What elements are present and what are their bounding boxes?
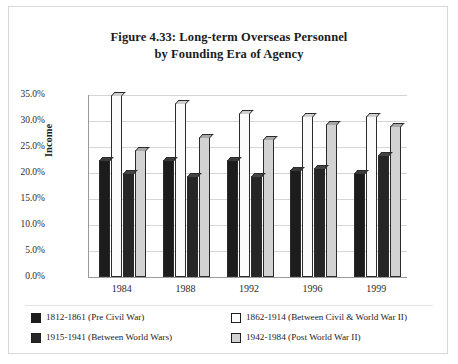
legend-swatch-icon <box>231 333 241 343</box>
plot-area <box>88 95 407 278</box>
bar-top-face <box>175 100 190 104</box>
legend-item-series-2: 1915-1941 (Between World Wars) <box>31 333 231 343</box>
legend-item-series-1: 1862-1914 (Between Civil & World War II) <box>231 313 431 323</box>
bar-group <box>163 95 210 277</box>
y-axis-tick-label: 15.0% <box>0 194 45 204</box>
x-axis-tick-label: 1999 <box>346 283 406 294</box>
legend-swatch-icon <box>231 313 241 323</box>
legend-row: 1915-1941 (Between World Wars) 1942-1984… <box>31 333 431 343</box>
x-axis-tick-label: 1992 <box>219 283 279 294</box>
bar <box>366 116 377 277</box>
legend-label: 1862-1914 (Between Civil & World War II) <box>246 313 407 322</box>
bar <box>111 95 122 277</box>
bar-top-face <box>302 113 317 117</box>
chart-title-line-1: Figure 4.33: Long-term Overseas Personne… <box>111 30 348 44</box>
bar <box>263 139 274 277</box>
x-axis-tick-label: 1996 <box>283 283 343 294</box>
legend-label: 1942-1984 (Post World War II) <box>246 333 361 342</box>
x-axis-tick-label: 1988 <box>155 283 215 294</box>
y-axis-tick-label: 10.0% <box>0 220 45 230</box>
bar <box>239 113 250 277</box>
bar-top-face <box>239 110 254 114</box>
bar-group <box>99 95 146 277</box>
bar-group <box>290 95 337 277</box>
bar-top-face <box>366 113 381 117</box>
chart-title: Figure 4.33: Long-term Overseas Personne… <box>9 29 449 63</box>
legend-label: 1812-1861 (Pre Civil War) <box>46 313 144 322</box>
y-axis-tick-label: 0.0% <box>0 272 45 282</box>
bar <box>378 155 389 277</box>
chart-title-line-2: by Founding Era of Agency <box>9 46 449 63</box>
bar <box>199 137 210 277</box>
legend-row: 1812-1861 (Pre Civil War) 1862-1914 (Bet… <box>31 313 431 323</box>
bar <box>123 173 134 277</box>
legend-swatch-icon <box>31 313 41 323</box>
bar-group <box>227 95 274 277</box>
bar <box>163 160 174 277</box>
legend-label: 1915-1941 (Between World Wars) <box>46 333 172 342</box>
bar <box>390 126 401 277</box>
bar <box>302 116 313 277</box>
bar <box>314 168 325 277</box>
bar <box>135 150 146 277</box>
x-axis-tick-label: 1984 <box>92 283 152 294</box>
bar <box>290 170 301 277</box>
bar-group <box>354 95 401 277</box>
bar <box>354 173 365 277</box>
legend-divider <box>25 305 433 306</box>
y-axis-tick-label: 35.0% <box>0 90 45 100</box>
bar <box>175 103 186 277</box>
bar <box>187 176 198 277</box>
legend-item-series-3: 1942-1984 (Post World War II) <box>231 333 431 343</box>
bar <box>251 176 262 277</box>
chart-legend: 1812-1861 (Pre Civil War) 1862-1914 (Bet… <box>31 313 431 353</box>
y-axis-tick-label: 30.0% <box>0 116 45 126</box>
bar <box>326 124 337 277</box>
y-axis-tick-label: 20.0% <box>0 168 45 178</box>
bar-top-face <box>111 92 126 96</box>
y-axis-tick-label: 25.0% <box>0 142 45 152</box>
legend-item-series-0: 1812-1861 (Pre Civil War) <box>31 313 231 323</box>
figure-frame: Figure 4.33: Long-term Overseas Personne… <box>8 6 448 354</box>
legend-swatch-icon <box>31 333 41 343</box>
bar <box>227 160 238 277</box>
y-axis-tick-label: 5.0% <box>0 246 45 256</box>
bar <box>99 160 110 277</box>
